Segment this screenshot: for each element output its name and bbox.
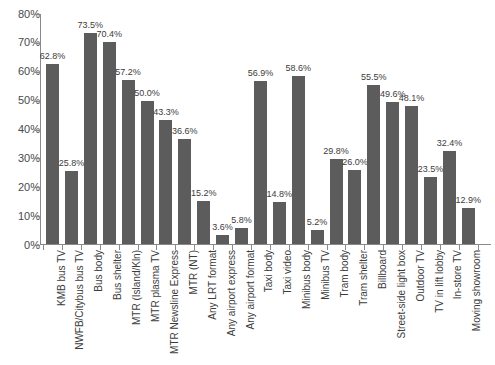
x-axis-labels: KMB bus TVNWFB/Citybus bus TVBus bodyBus…	[40, 250, 491, 365]
bar-value-label: 12.9%	[450, 196, 486, 205]
bar-value-label: 70.4%	[91, 30, 127, 39]
bar-value-label: 50.0%	[129, 89, 165, 98]
bar	[462, 208, 475, 245]
x-axis-category-label: MTR (Island/Kln)	[132, 250, 142, 325]
x-axis-category-label-text: Street-side light box	[397, 250, 407, 338]
x-axis-category-label: MTR Newsline Express	[170, 250, 180, 354]
x-axis-category-label-text: Any airport format	[246, 250, 256, 329]
x-axis-tick-mark	[43, 245, 44, 250]
x-axis-tick-mark	[327, 245, 328, 250]
bar-value-label: 56.9%	[242, 69, 278, 78]
x-axis-tick-mark	[138, 245, 139, 250]
x-axis-category-label: Street-side light box	[397, 250, 407, 338]
x-axis-tick-mark	[478, 245, 479, 250]
x-axis-category-label-text: Billboard	[378, 250, 388, 289]
x-axis-line	[40, 244, 491, 245]
x-axis-tick-mark	[459, 245, 460, 250]
bar-value-label: 55.5%	[356, 73, 392, 82]
bar	[348, 170, 361, 245]
x-axis-category-label: TV in lift lobby	[435, 250, 445, 313]
x-axis-tick-mark	[270, 245, 271, 250]
plot-area: 62.8%25.8%73.5%70.4%57.2%50.0%43.3%36.6%…	[40, 14, 491, 245]
x-axis-category-label-text: MTR (NT)	[189, 250, 199, 294]
x-axis-tick-mark	[383, 245, 384, 250]
x-axis-category-label: Billboard	[378, 250, 388, 289]
x-axis-tick-mark	[232, 245, 233, 250]
x-axis-tick-mark	[119, 245, 120, 250]
bar	[122, 80, 135, 245]
bar-value-label: 15.2%	[186, 189, 222, 198]
x-axis-category-label-text: Bus shelter	[113, 250, 123, 300]
bar-value-label: 43.3%	[148, 108, 184, 117]
x-axis-category-label-text: Minibus TV	[321, 250, 331, 300]
bar	[311, 230, 324, 245]
bar-value-label: 29.8%	[318, 147, 354, 156]
bar	[235, 228, 248, 245]
bar-value-label: 57.2%	[110, 68, 146, 77]
x-axis-category-label: Any LRT format	[208, 250, 218, 320]
x-axis-category-label-text: Tram body	[340, 250, 350, 297]
x-axis-category-label: Minibus body	[302, 250, 312, 309]
x-axis-category-label-text: MTR Newsline Express	[170, 250, 180, 354]
x-axis-tick-mark	[100, 245, 101, 250]
x-axis-category-label-text: Taxi body	[264, 250, 274, 292]
x-axis-category-label-text: In-store TV	[453, 250, 463, 299]
x-axis-category-label-text: Any airport express	[227, 250, 237, 336]
x-axis-category-label: In-store TV	[453, 250, 463, 299]
x-axis-tick-mark	[345, 245, 346, 250]
bar-chart: 0%10%20%30%40%50%60%70%80% 62.8%25.8%73.…	[0, 0, 495, 365]
bar-value-label: 48.1%	[394, 94, 430, 103]
x-axis-category-label: Minibus TV	[321, 250, 331, 300]
x-axis-tick-mark	[364, 245, 365, 250]
x-axis-category-label: Outdoor TV	[416, 250, 426, 302]
x-axis-category-label: MTR plasma TV	[151, 250, 161, 322]
x-axis-category-label-text: Moving showroom	[472, 250, 482, 331]
x-axis-category-label: Taxi video	[283, 250, 293, 294]
x-axis-category-label: KMB bus TV	[57, 250, 67, 306]
x-axis-tick-mark	[156, 245, 157, 250]
x-axis-category-label-text: MTR plasma TV	[151, 250, 161, 322]
x-axis-category-label-text: KMB bus TV	[57, 250, 67, 306]
bar	[159, 120, 172, 245]
x-axis-category-label: Taxi body	[264, 250, 274, 292]
x-axis-category-label: Bus body	[94, 250, 104, 292]
x-axis-category-label-text: Tram shelter	[359, 250, 369, 306]
x-axis-category-label: Tram shelter	[359, 250, 369, 306]
x-axis-category-label-text: MTR (Island/Kln)	[132, 250, 142, 325]
x-axis-category-label-text: Bus body	[94, 250, 104, 292]
bar	[424, 177, 437, 245]
x-axis-tick-mark	[289, 245, 290, 250]
bar-value-label: 62.8%	[35, 52, 71, 61]
bar-value-label: 36.6%	[167, 127, 203, 136]
bar	[367, 85, 380, 245]
x-axis-tick-mark	[175, 245, 176, 250]
x-axis-category-label-text: Taxi video	[283, 250, 293, 294]
bar-value-label: 58.6%	[280, 64, 316, 73]
x-axis-category-label: NWFB/Citybus bus TV	[75, 250, 85, 350]
bar	[330, 159, 343, 245]
x-axis-tick-mark	[194, 245, 195, 250]
x-axis-tick-mark	[308, 245, 309, 250]
x-axis-category-label-text: TV in lift lobby	[435, 250, 445, 313]
x-axis-category-label-text: Any LRT format	[208, 250, 218, 320]
x-axis-tick-mark	[81, 245, 82, 250]
x-axis-category-label-text: Outdoor TV	[416, 250, 426, 302]
bar	[65, 171, 78, 245]
bar	[141, 101, 154, 245]
x-axis-tick-mark	[62, 245, 63, 250]
x-axis-category-label: MTR (NT)	[189, 250, 199, 294]
x-axis-tick-mark	[213, 245, 214, 250]
bar	[273, 202, 286, 245]
bar	[46, 64, 59, 245]
bar-value-label: 32.4%	[431, 139, 467, 148]
x-axis-category-label-text: NWFB/Citybus bus TV	[75, 250, 85, 350]
bar	[254, 81, 267, 245]
bar	[386, 102, 399, 245]
x-axis-category-label: Any airport format	[246, 250, 256, 329]
x-axis-category-label: Tram body	[340, 250, 350, 297]
x-axis-category-label-text: Minibus body	[302, 250, 312, 309]
x-axis-tick-mark	[251, 245, 252, 250]
x-axis-tick-mark	[440, 245, 441, 250]
y-axis-tick-mark	[35, 245, 40, 246]
x-axis-category-label: Moving showroom	[472, 250, 482, 331]
